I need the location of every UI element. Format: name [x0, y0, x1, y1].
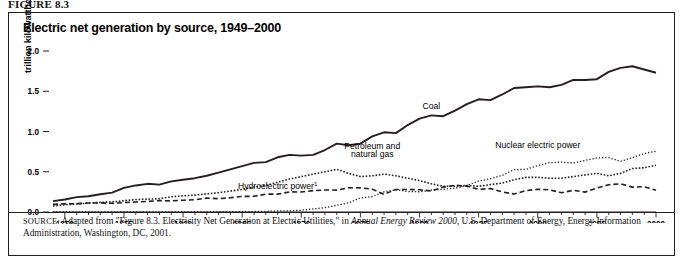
series-line-coal — [53, 66, 656, 201]
y-tick-label: 2.0 — [28, 47, 40, 56]
y-tick-label: 1.0 — [28, 128, 40, 137]
page-title: Electric net generation by source, 1949–… — [23, 21, 281, 35]
source-prefix: SOURCE: — [23, 217, 60, 226]
series-annotation: Nuclear electric power — [495, 140, 580, 150]
series-annotation: Coal — [423, 101, 441, 111]
y-tick-label: 0.5 — [28, 168, 40, 177]
chart-plot-area: 0.00.51.01.52.01950195519601965197019751… — [9, 43, 674, 223]
figure-title-bar: Electric net generation by source, 1949–… — [9, 13, 674, 43]
series-line-nuclear-electric-power — [53, 151, 656, 212]
source-divider — [9, 212, 674, 213]
source-text-before: Adapted from "Figure 8.3. Electricity Ne… — [60, 216, 351, 226]
source-publication-title: Annual Energy Review 2000 — [351, 216, 457, 226]
figure-box: Electric net generation by source, 1949–… — [8, 12, 675, 256]
series-annotation: natural gas — [351, 149, 394, 159]
series-line-hydroelectric-power — [53, 184, 656, 205]
figure-number-label: FIGURE 8.3 — [8, 0, 208, 12]
line-chart: 0.00.51.01.52.01950195519601965197019751… — [9, 43, 674, 223]
series-annotation: Hydroelectric power1 — [238, 181, 318, 191]
y-tick-label: 1.5 — [28, 87, 40, 96]
figure-page: FIGURE 8.3 Electric net generation by so… — [0, 0, 685, 266]
series-line-petroleum-and-natural-gas — [53, 165, 656, 206]
source-note: SOURCE: Adapted from "Figure 8.3. Electr… — [23, 216, 663, 239]
